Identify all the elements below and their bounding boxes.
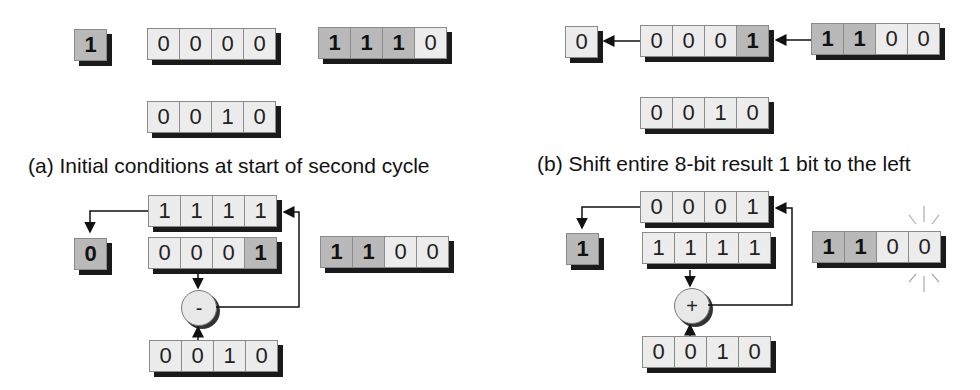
bit-cell: 0 xyxy=(416,236,449,268)
bit-cell: 0 xyxy=(243,28,276,60)
register-d-q: 1100 xyxy=(812,231,941,263)
bit-cell: 0 xyxy=(908,231,941,263)
subtract-operator: - xyxy=(181,290,217,326)
bit-cell: 0 xyxy=(640,191,673,223)
bit-cell: 0 xyxy=(384,236,417,268)
register-d-carry: 1 xyxy=(566,233,599,265)
bit-cell: 1 xyxy=(180,195,213,227)
bit-cell: 0 xyxy=(565,26,598,58)
bit-cell: 1 xyxy=(812,231,845,263)
bit-cell: 1 xyxy=(352,236,385,268)
bit-cell: 0 xyxy=(245,340,278,372)
bit-cell: 1 xyxy=(244,195,277,227)
bit-cell: 1 xyxy=(738,232,771,264)
register-a-carry: 1 xyxy=(74,29,107,61)
bit-cell: 0 xyxy=(640,25,673,57)
bit-cell: 1 xyxy=(706,232,739,264)
bit-cell: 0 xyxy=(640,97,673,129)
bit-cell: 0 xyxy=(907,23,940,55)
bit-cell: 1 xyxy=(706,336,739,368)
register-b-acc: 0001 xyxy=(640,25,769,57)
bit-cell: 1 xyxy=(843,23,876,55)
bit-cell: 1 xyxy=(74,29,107,61)
bit-cell: 1 xyxy=(736,25,769,57)
bit-cell: 0 xyxy=(212,237,245,269)
bit-cell: 1 xyxy=(674,232,707,264)
bit-cell: 0 xyxy=(736,97,769,129)
bit-cell: 0 xyxy=(672,25,705,57)
bit-cell: 1 xyxy=(318,27,351,59)
bit-cell: 0 xyxy=(147,101,180,133)
register-d-result: 0001 xyxy=(640,191,769,223)
add-operator: + xyxy=(674,288,710,324)
bit-cell: 0 xyxy=(738,336,771,368)
bit-cell: 1 xyxy=(844,231,877,263)
bit-cell: 0 xyxy=(148,237,181,269)
register-c-carry: 0 xyxy=(74,238,107,270)
caption-a: (a) Initial conditions at start of secon… xyxy=(28,154,430,178)
bit-cell: 1 xyxy=(811,23,844,55)
bit-cell: 0 xyxy=(704,25,737,57)
bit-cell: 0 xyxy=(414,27,447,59)
register-c-result: 1111 xyxy=(148,195,277,227)
bit-cell: 0 xyxy=(672,191,705,223)
register-c-q: 1100 xyxy=(320,236,449,268)
bit-cell: 1 xyxy=(148,195,181,227)
bit-cell: 0 xyxy=(147,28,180,60)
bit-cell: 1 xyxy=(211,101,244,133)
bit-cell: 0 xyxy=(243,101,276,133)
register-c-div: 0010 xyxy=(149,340,278,372)
bit-cell: 0 xyxy=(672,97,705,129)
register-d-div: 0010 xyxy=(642,336,771,368)
register-b-carry: 0 xyxy=(565,26,598,58)
bit-cell: 0 xyxy=(179,101,212,133)
register-a-q: 1110 xyxy=(318,27,447,59)
bit-cell: 1 xyxy=(382,27,415,59)
register-b-div: 0010 xyxy=(640,97,769,129)
register-d-acc: 1111 xyxy=(642,232,771,264)
bit-cell: 0 xyxy=(74,238,107,270)
bit-cell: 0 xyxy=(876,231,909,263)
register-b-q: 1100 xyxy=(811,23,940,55)
bit-cell: 1 xyxy=(212,195,245,227)
bit-cell: 1 xyxy=(642,232,675,264)
caption-b: (b) Shift entire 8-bit result 1 bit to t… xyxy=(537,152,911,176)
bit-cell: 0 xyxy=(674,336,707,368)
bit-cell: 1 xyxy=(736,191,769,223)
bit-cell: 0 xyxy=(211,28,244,60)
bit-cell: 1 xyxy=(350,27,383,59)
bit-cell: 0 xyxy=(875,23,908,55)
bit-cell: 0 xyxy=(149,340,182,372)
bit-cell: 0 xyxy=(181,340,214,372)
bit-cell: 0 xyxy=(180,237,213,269)
register-a-div: 0010 xyxy=(147,101,276,133)
register-c-acc: 0001 xyxy=(148,237,277,269)
register-a-acc: 0000 xyxy=(147,28,276,60)
bit-cell: 0 xyxy=(704,191,737,223)
bit-cell: 1 xyxy=(213,340,246,372)
bit-cell: 1 xyxy=(704,97,737,129)
bit-cell: 0 xyxy=(179,28,212,60)
bit-cell: 0 xyxy=(642,336,675,368)
bit-cell: 1 xyxy=(244,237,277,269)
bit-cell: 1 xyxy=(320,236,353,268)
bit-cell: 1 xyxy=(566,233,599,265)
